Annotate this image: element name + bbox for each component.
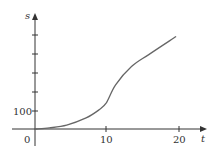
x-tick-label-20: 20: [173, 134, 186, 145]
y-axis-arrow-icon: [32, 13, 38, 20]
y-tick-label-100: 100: [13, 106, 32, 117]
data-curve: [35, 37, 176, 130]
origin-label: 0: [24, 134, 30, 145]
y-axis-label: s: [25, 10, 30, 21]
x-axis-arrow-icon: [200, 126, 207, 132]
x-axis-label: t: [201, 133, 206, 144]
x-tick-label-10: 10: [100, 134, 113, 145]
chart: 100 0 10 20 t s: [0, 0, 216, 157]
